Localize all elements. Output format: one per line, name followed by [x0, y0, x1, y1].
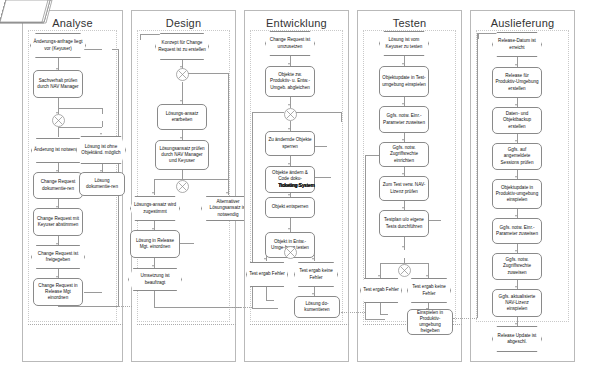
function-node[interactable]: Einspielen in Produktiv-umgebung freigeb…: [407, 309, 453, 335]
function-node[interactable]: Ggfs. notw. Zugriffsrechte zuweisen: [492, 253, 542, 280]
swimlane-title-auslieferung: Auslieferung: [471, 17, 574, 29]
function-node[interactable]: Ggfs. auf angemeldete Sessions prüfen: [492, 143, 542, 170]
function-node[interactable]: Ggfs. aktualisierte NAV-Lizenz einspiele…: [492, 289, 542, 317]
function-node[interactable]: Objektupdate in Produktiv-umgebung einsp…: [492, 179, 542, 209]
event-node[interactable]: Release-Datum ist erreicht: [492, 32, 542, 57]
function-node[interactable]: Daten- und Objektbackup erstellen: [492, 107, 542, 134]
function-node[interactable]: Ggfs. notw. Einr.-Parameter zuweisen: [492, 218, 542, 244]
flowchart-canvas: Analyse Änderungs-anfrage liegt vor (Key…: [0, 0, 593, 372]
event-node[interactable]: Release Update ist abgeschl.: [492, 326, 542, 352]
info-object-node[interactable]: Ticketing System: [0, 156, 48, 178]
function-node[interactable]: Release für Produktiv-Umgebung erstellen: [492, 67, 542, 98]
